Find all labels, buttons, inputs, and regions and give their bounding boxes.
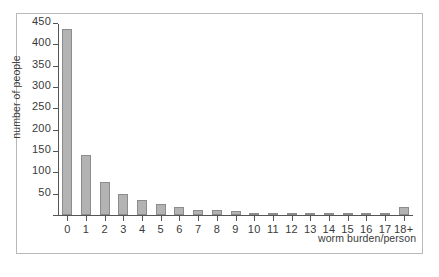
y-tick-label: 300 (32, 79, 51, 91)
x-tick-mark (366, 216, 367, 221)
x-tick-label: 7 (195, 223, 201, 235)
plot-area (58, 24, 413, 216)
x-tick-label: 10 (248, 223, 261, 235)
x-tick-mark (198, 216, 199, 221)
x-tick-label: 1 (83, 223, 89, 235)
x-tick-mark (123, 216, 124, 221)
bar (212, 210, 222, 215)
x-tick-label: 16 (360, 223, 373, 235)
y-tick-label: 400 (32, 36, 51, 48)
x-tick-mark (67, 216, 68, 221)
x-tick-mark (217, 216, 218, 221)
x-tick-label: 6 (176, 223, 182, 235)
x-tick-label: 4 (139, 223, 145, 235)
x-tick-mark (86, 216, 87, 221)
x-tick-label: 11 (267, 223, 279, 235)
x-tick-label: 2 (102, 223, 108, 235)
bar (174, 207, 184, 215)
x-tick-label: 14 (323, 223, 336, 235)
x-tick-mark (385, 216, 386, 221)
x-tick-label: 8 (214, 223, 220, 235)
bar (81, 155, 91, 215)
y-axis-label: number of people (10, 0, 24, 38)
x-tick-label: 0 (64, 223, 70, 235)
x-tick-mark (273, 216, 274, 221)
x-tick-label: 18+ (394, 223, 413, 235)
x-tick-mark (348, 216, 349, 221)
x-tick-mark (329, 216, 330, 221)
bar (137, 200, 147, 215)
y-tick-label: 450 (32, 15, 51, 27)
bar (343, 213, 353, 215)
bar (62, 29, 72, 215)
x-tick-mark (161, 216, 162, 221)
y-tick-label: 250 (32, 100, 51, 112)
bar (156, 204, 166, 215)
x-tick-mark (404, 216, 405, 221)
y-tick-label: 350 (32, 58, 51, 70)
bar (399, 207, 409, 215)
x-tick-label: 5 (158, 223, 164, 235)
x-tick-mark (179, 216, 180, 221)
x-tick-mark (254, 216, 255, 221)
bar (249, 213, 259, 215)
bar (268, 213, 278, 215)
bar (231, 211, 241, 215)
bar (118, 194, 128, 215)
y-tick-label: 150 (32, 143, 51, 155)
x-tick-label: 15 (341, 223, 354, 235)
x-tick-mark (105, 216, 106, 221)
bar (100, 182, 110, 215)
bar (305, 213, 315, 215)
y-tick-label: 50 (38, 186, 51, 198)
x-tick-label: 17 (379, 223, 392, 235)
x-tick-mark (292, 216, 293, 221)
bar (287, 213, 297, 215)
x-tick-label: 12 (285, 223, 298, 235)
bar (324, 213, 334, 215)
bar (193, 210, 203, 215)
x-tick-mark (236, 216, 237, 221)
chart-figure: number of people worm burden/person 5010… (0, 0, 439, 277)
x-tick-mark (310, 216, 311, 221)
x-tick-label: 13 (304, 223, 317, 235)
y-tick-label: 200 (32, 122, 51, 134)
y-tick-label: 100 (32, 164, 51, 176)
x-tick-mark (142, 216, 143, 221)
x-tick-label: 9 (232, 223, 238, 235)
x-tick-label: 3 (120, 223, 126, 235)
bar (380, 213, 390, 215)
bar (361, 213, 371, 215)
